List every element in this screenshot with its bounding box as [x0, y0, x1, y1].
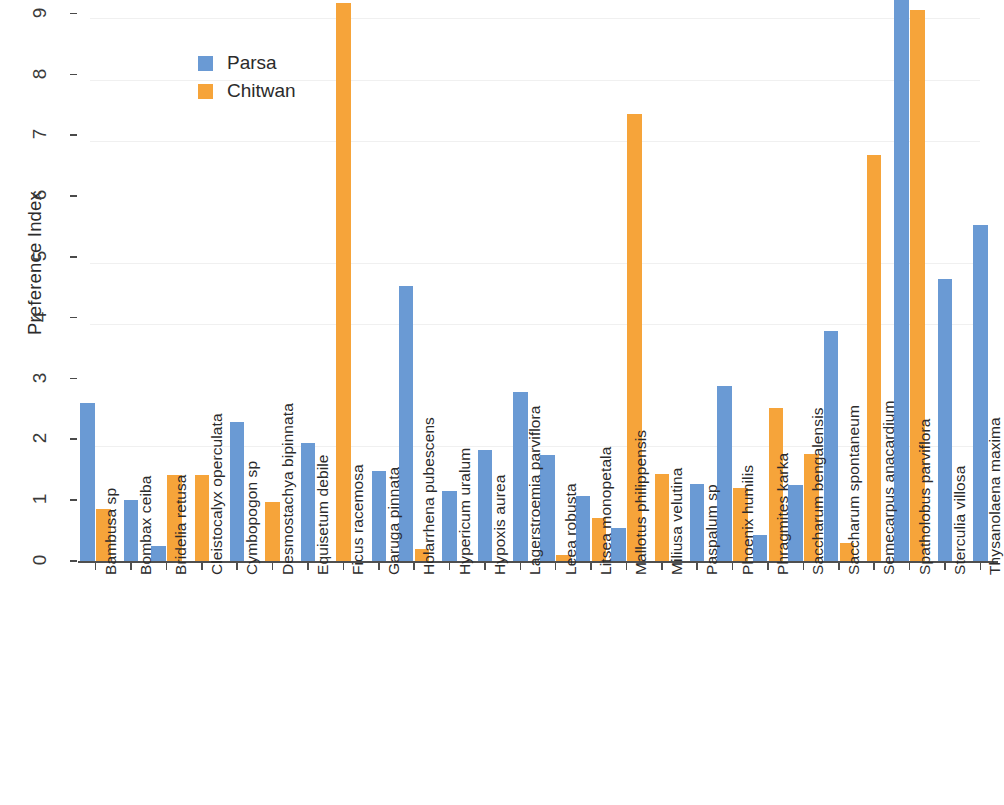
y-tick-mark — [70, 256, 77, 258]
x-tick-mark — [201, 562, 203, 570]
y-tick-mark — [70, 317, 77, 319]
x-tick-label: Saccharum bengalensis — [809, 407, 827, 575]
bar-parsa — [80, 403, 95, 562]
y-tick-mark — [70, 13, 77, 15]
bar-chitwan — [195, 475, 210, 562]
x-tick-mark — [626, 562, 628, 570]
x-tick-mark — [236, 562, 238, 570]
x-tick-label: Holarrhena pubescens — [420, 417, 438, 575]
x-tick-mark — [661, 562, 663, 570]
y-tick-label: 0 — [29, 540, 51, 580]
x-tick-label: Bombax ceiba — [137, 476, 155, 575]
x-tick-mark — [520, 562, 522, 570]
x-tick-mark — [413, 562, 415, 570]
y-tick-mark — [70, 134, 77, 136]
x-tick-label: Cleistocalyx operculata — [208, 413, 226, 575]
x-tick-label: Hypoxis aurea — [491, 475, 509, 575]
x-tick-label: Miliusa velutina — [668, 467, 686, 575]
x-tick-mark — [272, 562, 274, 570]
x-tick-mark — [449, 562, 451, 570]
x-tick-mark — [944, 562, 946, 570]
x-tick-label: Litsea monopetala — [597, 447, 615, 575]
y-tick-label: 1 — [29, 479, 51, 519]
x-tick-mark — [767, 562, 769, 570]
x-tick-label: Ficus racemosa — [349, 464, 367, 575]
bar-parsa — [442, 491, 457, 562]
x-tick-mark — [555, 562, 557, 570]
x-tick-label: Hypericum uralum — [456, 448, 474, 575]
y-tick-mark — [70, 438, 77, 440]
y-tick-label: 2 — [29, 418, 51, 458]
x-tick-label: Bambusa sp — [102, 488, 120, 575]
bar-chitwan — [265, 502, 280, 562]
bar-chitwan — [655, 474, 670, 562]
x-tick-mark — [95, 562, 97, 570]
x-tick-mark — [732, 562, 734, 570]
x-tick-mark — [130, 562, 132, 570]
y-tick-label: 4 — [29, 297, 51, 337]
x-tick-label: Cymbopogon sp — [243, 461, 261, 575]
x-tick-mark — [484, 562, 486, 570]
x-tick-label: Phoenix humilis — [739, 465, 757, 575]
y-tick-mark — [70, 378, 77, 380]
y-tick-label: 7 — [29, 114, 51, 154]
x-tick-label: Thysanolaena maxima — [986, 417, 1004, 575]
y-tick-label: 9 — [29, 0, 51, 33]
y-tick-label: 8 — [29, 54, 51, 94]
x-tick-mark — [343, 562, 345, 570]
x-tick-mark — [803, 562, 805, 570]
y-tick-mark — [70, 195, 77, 197]
x-tick-label: Semecarpus anacardium — [880, 401, 898, 575]
x-tick-label: Leea robusta — [562, 483, 580, 575]
x-tick-label: Equisetum debile — [314, 454, 332, 575]
x-tick-label: Saccharum spontaneum — [845, 405, 863, 575]
x-tick-label: Bridelia retusa — [172, 474, 190, 575]
x-tick-mark — [166, 562, 168, 570]
x-tick-mark — [838, 562, 840, 570]
y-tick-label: 6 — [29, 175, 51, 215]
x-tick-mark — [873, 562, 875, 570]
x-tick-mark — [909, 562, 911, 570]
bar-parsa — [372, 471, 387, 562]
x-tick-label: Desmostachya bipinnata — [279, 403, 297, 575]
x-tick-label: Garuga pinnata — [385, 467, 403, 575]
x-tick-mark — [307, 562, 309, 570]
x-tick-label: Paspalum sp — [703, 484, 721, 575]
y-tick-label: 5 — [29, 236, 51, 276]
x-tick-label: Phragmites karka — [774, 453, 792, 575]
x-tick-mark — [980, 562, 982, 570]
x-tick-label: Spatholobus parviflora — [916, 419, 934, 575]
x-tick-mark — [590, 562, 592, 570]
y-tick-label: 3 — [29, 358, 51, 398]
bar-parsa — [938, 279, 953, 562]
bar-parsa — [478, 450, 493, 562]
x-tick-label: Lagerstroemia parviflora — [526, 405, 544, 575]
x-tick-label: Mallotus philippensis — [632, 430, 650, 575]
y-tick-mark — [70, 560, 77, 562]
x-tick-mark — [696, 562, 698, 570]
x-tick-label: Sterculia villosa — [951, 466, 969, 575]
y-tick-mark — [70, 499, 77, 501]
y-tick-mark — [70, 74, 77, 76]
x-tick-mark — [378, 562, 380, 570]
